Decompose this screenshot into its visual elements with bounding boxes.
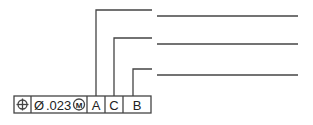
datum-b: B <box>133 98 142 113</box>
tolerance-value: .023 <box>46 98 71 113</box>
datum-c: C <box>109 98 118 113</box>
datum-a: A <box>92 98 101 113</box>
leader-a <box>96 10 152 96</box>
position-icon <box>17 99 29 111</box>
gdt-diagram: Ø .023 M A C B <box>0 0 313 125</box>
feature-control-frame: Ø .023 M A C B <box>14 96 151 113</box>
leader-b <box>133 69 152 96</box>
svg-text:M: M <box>76 101 83 110</box>
mmc-modifier-icon: M <box>74 99 85 110</box>
diameter-symbol: Ø <box>34 98 44 113</box>
